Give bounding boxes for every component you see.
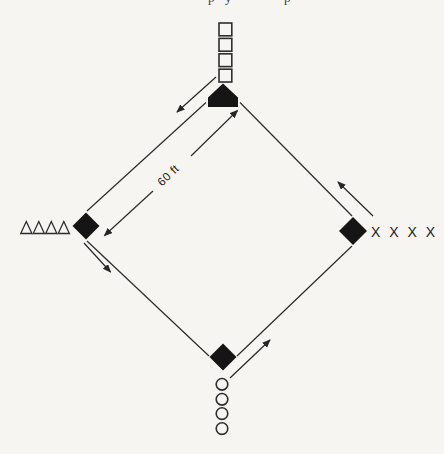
baseline-left-to-bottom xyxy=(87,241,209,356)
caption-fragment: p xyxy=(208,0,215,5)
caption-fragment: y xyxy=(225,0,232,5)
cropped-caption: p y p xyxy=(0,0,444,5)
open-circle-marker xyxy=(216,423,228,435)
open-circle-marker xyxy=(216,408,228,420)
baseline-bottom-to-right xyxy=(237,246,352,356)
open-square-marker xyxy=(219,38,232,51)
home-plate xyxy=(208,84,238,108)
right-base xyxy=(339,217,367,245)
squares-waiting-line-top xyxy=(219,23,232,82)
left-base xyxy=(73,213,100,240)
open-circle-marker xyxy=(216,394,228,406)
distance-label-60ft: 60 ft xyxy=(155,162,181,188)
bottom-base xyxy=(210,344,237,371)
open-triangle-marker xyxy=(33,222,44,234)
rotation-arrows xyxy=(84,77,373,378)
x-players-line-right: X X X X xyxy=(371,224,438,240)
open-square-marker xyxy=(219,69,232,82)
baseline-home-to-left xyxy=(87,103,206,212)
diamond-diagram-svg: 60 ft X X X X xyxy=(0,0,444,454)
baselines xyxy=(87,103,352,357)
dimension-line-lower-segment xyxy=(105,191,154,236)
open-triangle-marker xyxy=(58,222,69,234)
open-circle-marker xyxy=(216,379,228,391)
run-arrow-left-to-bottom xyxy=(84,243,111,272)
baseline-right-to-home xyxy=(240,103,352,217)
circles-waiting-line-bottom xyxy=(216,379,228,435)
open-square-marker xyxy=(219,23,232,36)
triangles-waiting-line-left xyxy=(21,222,70,234)
caption-fragment: p xyxy=(284,0,291,5)
field-diagram: p y p 60 ft xyxy=(0,0,444,454)
open-triangle-marker xyxy=(46,222,57,234)
run-arrow-right-to-home xyxy=(338,182,373,216)
dimension-line-upper-segment xyxy=(191,111,238,157)
open-square-marker xyxy=(219,54,232,67)
open-triangle-marker xyxy=(21,222,32,234)
run-arrow-bottom-to-right xyxy=(230,340,270,378)
